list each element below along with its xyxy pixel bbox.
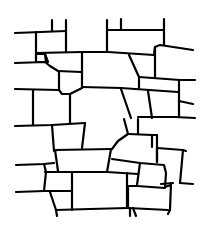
- stone-wall-illustration: [0, 0, 209, 236]
- stone-wall-lines: [15, 19, 195, 216]
- stone-wall-drawing: [0, 0, 209, 236]
